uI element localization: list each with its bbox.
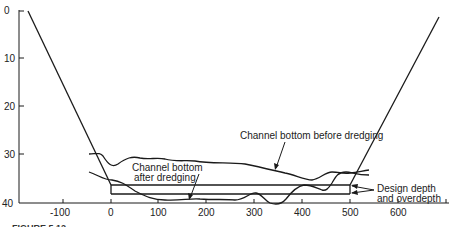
y-tick-30: 30: [4, 149, 16, 160]
arrow-head-overdepth: [351, 190, 358, 195]
x-tick-0: 0: [108, 207, 114, 218]
x-tick-600: 600: [390, 207, 407, 218]
x-tick-500: 500: [342, 207, 359, 218]
x-tick-300: 300: [246, 207, 263, 218]
y-axis: 0 10 20 30 40: [2, 5, 24, 209]
bottom-after-dredging-line: [89, 172, 369, 204]
figure-caption: FIGURE 5.12 ...: [12, 223, 76, 227]
x-tick--100: -100: [50, 207, 70, 218]
x-tick-200: 200: [198, 207, 215, 218]
label-after-dredging-2: after dredging: [134, 172, 196, 183]
label-before-dredging: Channel bottom before dredging: [240, 130, 383, 141]
y-tick-10: 10: [4, 53, 16, 64]
leader-before: [276, 142, 285, 168]
bottom-before-dredging-line: [89, 154, 369, 181]
x-tick-400: 400: [294, 207, 311, 218]
x-tick-100: 100: [150, 207, 167, 218]
channel-dredging-diagram: 0 10 20 30 40 -100 0 100 200 300 400 500…: [0, 0, 449, 227]
y-tick-20: 20: [4, 101, 16, 112]
y-tick-0: 0: [4, 5, 10, 16]
side-slopes: [28, 11, 439, 185]
label-design-depth-2: and overdepth: [377, 193, 441, 204]
arrow-head-before: [274, 163, 279, 170]
y-tick-40: 40: [2, 198, 14, 209]
